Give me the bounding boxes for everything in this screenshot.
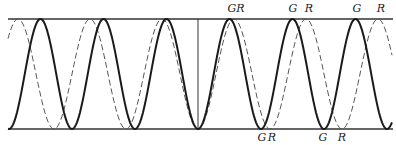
wave-label-g: G — [319, 131, 328, 144]
wave-diagram: GRGRGRGRGR — [0, 0, 396, 145]
wave-label-r: R — [304, 2, 313, 15]
wave-label-r: R — [337, 131, 346, 144]
wave-r-dashed — [8, 19, 392, 129]
wave-plot: GRGRGRGRGR — [0, 0, 396, 145]
wave-g-solid — [8, 19, 392, 129]
wave-label-r: R — [376, 2, 385, 15]
wave-label-g: G — [258, 131, 267, 144]
wave-label-r: R — [267, 131, 276, 144]
wave-label-g: G — [353, 2, 362, 15]
wave-label-gr: GR — [227, 2, 244, 15]
wave-labels: GRGRGRGRGR — [227, 2, 385, 144]
wave-label-g: G — [289, 2, 298, 15]
